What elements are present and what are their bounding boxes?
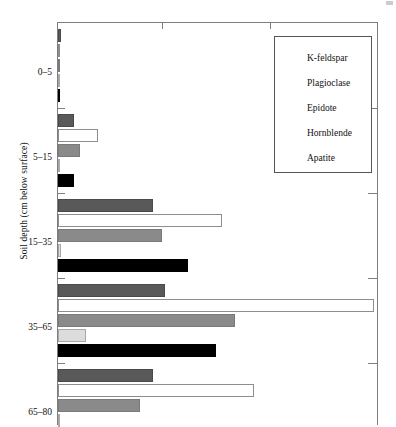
bar-kfeldspar-0-5: [58, 29, 61, 42]
legend-swatch-kfeldspar: [284, 51, 298, 64]
legend-label-apatite: Apatite: [307, 153, 335, 163]
y-axis-tick-right-4: [368, 363, 378, 364]
y-axis-title: Soil depth (cm below surface): [19, 101, 29, 301]
bar-hornblende-65-80: [58, 414, 60, 427]
legend-swatch-plagioclase: [284, 76, 298, 89]
legend-swatch-apatite: [284, 151, 298, 164]
bar-apatite-35-65: [58, 344, 216, 357]
bar-plagioclase-0-5: [58, 44, 60, 57]
y-axis-tick-right-2: [368, 193, 378, 194]
chart-legend: K-feldsparPlagioclaseEpidoteHornblendeAp…: [274, 36, 372, 173]
bar-hornblende-15-35: [58, 244, 61, 257]
bar-hornblende-5-15: [58, 159, 60, 172]
y-axis-tick-left-3: [57, 278, 65, 279]
legend-label-hornblende: Hornblende: [307, 128, 352, 138]
y-axis-tick-left-1: [57, 108, 65, 109]
axis-right-line: [377, 22, 378, 425]
bar-epidote-5-15: [58, 144, 80, 157]
group-label-15-35: 15–35: [0, 237, 52, 247]
bar-apatite-15-35: [58, 259, 188, 272]
legend-item-kfeldspar: K-feldspar: [284, 45, 371, 70]
bar-apatite-5-15: [58, 174, 74, 187]
y-axis-tick-left-4: [57, 363, 65, 364]
legend-label-plagioclase: Plagioclase: [307, 78, 350, 88]
group-label-35-65: 35–65: [0, 322, 52, 332]
legend-item-list: K-feldsparPlagioclaseEpidoteHornblendeAp…: [284, 45, 371, 170]
legend-item-epidote: Epidote: [284, 95, 371, 120]
axis-top-line: [57, 22, 378, 23]
legend-label-epidote: Epidote: [307, 103, 337, 113]
x-axis-tick-1: [270, 22, 271, 29]
bar-hornblende-0-5: [58, 74, 60, 87]
legend-label-kfeldspar: K-feldspar: [307, 53, 348, 63]
bar-kfeldspar-65-80: [58, 369, 153, 382]
legend-swatch-hornblende: [284, 126, 298, 139]
bar-epidote-15-35: [58, 229, 162, 242]
legend-item-plagioclase: Plagioclase: [284, 70, 371, 95]
group-label-0-5: 0–5: [0, 67, 52, 77]
group-label-5-15: 5–15: [0, 152, 52, 162]
legend-swatch-epidote: [284, 101, 298, 114]
bar-plagioclase-5-15: [58, 129, 98, 142]
legend-item-hornblende: Hornblende: [284, 120, 371, 145]
bar-epidote-65-80: [58, 399, 140, 412]
bar-kfeldspar-35-65: [58, 284, 165, 297]
group-label-65-80: 65–80: [0, 407, 52, 417]
bar-hornblende-35-65: [58, 329, 86, 342]
bar-plagioclase-35-65: [58, 299, 374, 312]
legend-item-apatite: Apatite: [284, 145, 371, 170]
y-axis-tick-left-2: [57, 193, 65, 194]
bar-plagioclase-65-80: [58, 384, 254, 397]
page-corner-artifact: [386, 1, 393, 5]
bar-plagioclase-15-35: [58, 214, 222, 227]
bar-kfeldspar-15-35: [58, 199, 153, 212]
y-axis-tick-right-3: [368, 278, 378, 279]
bar-epidote-0-5: [58, 59, 60, 72]
bar-apatite-0-5: [58, 89, 60, 102]
bar-kfeldspar-5-15: [58, 114, 74, 127]
bar-epidote-35-65: [58, 314, 235, 327]
x-axis-tick-0: [162, 22, 163, 29]
